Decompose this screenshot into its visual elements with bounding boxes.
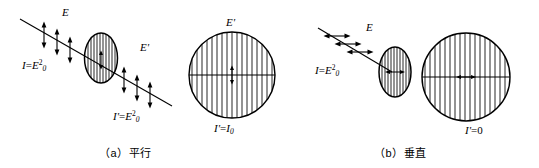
figure-canvas — [0, 0, 539, 168]
polarizer-ellipse-b — [379, 44, 411, 100]
panel-a-caption: （a）平行 — [99, 144, 152, 160]
label-incident-intensity-b: I=E20 — [315, 64, 339, 78]
label-cross-section-intensity-b: I'=0 — [465, 125, 483, 136]
transmitted-field-arrows-a — [122, 67, 153, 109]
label-cross-section-field-a: E' — [226, 17, 235, 28]
label-transmitted-field-a: E' — [140, 42, 149, 53]
beam-cross-section-circle-a — [189, 30, 275, 120]
panel-b-caption: （b）垂直 — [374, 144, 427, 160]
label-incident-field-b: E — [366, 22, 373, 33]
label-transmitted-intensity-a: I'=E20 — [113, 110, 139, 124]
label-incident-field-a: E — [62, 7, 69, 18]
polarizer-ellipse-a — [85, 30, 118, 86]
beam-cross-section-circle-b — [422, 30, 510, 125]
panel-b-graphics — [318, 28, 510, 125]
polarization-figure: E I=E20 E' I'=E20 E' I'=I0 （a）平行 E I=E20… — [0, 0, 539, 168]
panel-a-graphics — [20, 19, 275, 120]
label-incident-intensity-a: I=E20 — [22, 59, 46, 73]
label-cross-section-intensity-a: I'=I0 — [214, 123, 234, 136]
incident-field-arrows-a — [42, 22, 73, 64]
incident-field-arrows-b — [324, 34, 374, 55]
